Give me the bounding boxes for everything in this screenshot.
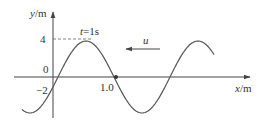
point-marker — [114, 75, 118, 79]
time-label: t=1s — [80, 25, 99, 37]
tick-label-4: 4 — [40, 33, 46, 45]
velocity-label: u — [143, 34, 149, 46]
tick-label-origin: 0 — [43, 63, 49, 75]
wave-diagram: y/m x/m 4 0 −2 1.0 t=1s u — [0, 0, 266, 130]
tick-label-neg2: −2 — [36, 84, 48, 96]
x-axis-label: x/m — [234, 82, 252, 94]
tick-label-1-0: 1.0 — [100, 81, 114, 93]
y-axis-label: y/m — [29, 7, 47, 19]
